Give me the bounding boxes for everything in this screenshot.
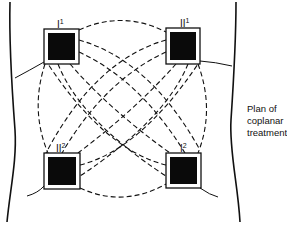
- caption-line: treatment: [247, 127, 287, 139]
- diagram-caption: Plan of coplanar treatment: [247, 103, 287, 139]
- field-II2: [44, 153, 80, 189]
- body-outline-right: [231, 2, 240, 222]
- field-label-I1: I1: [57, 17, 64, 30]
- body-outline-left: [7, 2, 15, 222]
- caption-line: Plan of: [247, 103, 287, 115]
- field-I2: [166, 153, 201, 188]
- field-II1: [166, 28, 200, 64]
- field-label-I2: I2: [180, 141, 187, 154]
- field-label-II2: II2: [56, 141, 65, 154]
- coplanar-treatment-diagram: [0, 0, 287, 226]
- field-label-II1: II1: [180, 16, 189, 29]
- caption-line: coplanar: [247, 115, 287, 127]
- field-I1: [44, 29, 79, 64]
